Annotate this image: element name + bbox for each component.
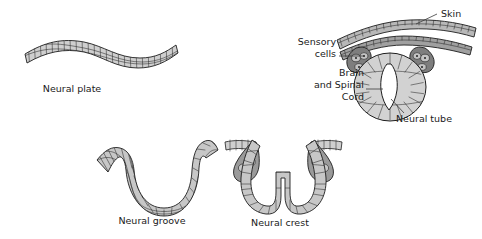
panel-neural-plate: Neural plate xyxy=(20,37,182,94)
label-neural-groove: Neural groove xyxy=(118,215,185,226)
label-brain-line3: Cord xyxy=(342,91,364,102)
panel-neural-groove: Neural groove xyxy=(92,140,224,226)
panel-neural-crest: Neural crest xyxy=(225,138,342,228)
label-brain-line2: and Spinal xyxy=(314,79,364,90)
crest-body xyxy=(238,138,328,215)
label-neural-tube: Neural tube xyxy=(396,113,452,124)
diagram-canvas: Neural plate Neural groove xyxy=(0,0,482,239)
label-sensory-cells-line1: Sensory xyxy=(298,36,337,47)
label-sensory-cells-line2: cells xyxy=(315,48,336,59)
label-neural-crest: Neural crest xyxy=(251,217,309,228)
label-brain-line1: Brain xyxy=(339,67,364,78)
neural-plate-sheet xyxy=(20,37,182,74)
neurulation-figure: Neural plate Neural groove xyxy=(0,0,482,239)
label-skin: Skin xyxy=(441,8,461,19)
neural-groove-sheet xyxy=(92,140,224,218)
label-neural-plate: Neural plate xyxy=(43,83,102,94)
